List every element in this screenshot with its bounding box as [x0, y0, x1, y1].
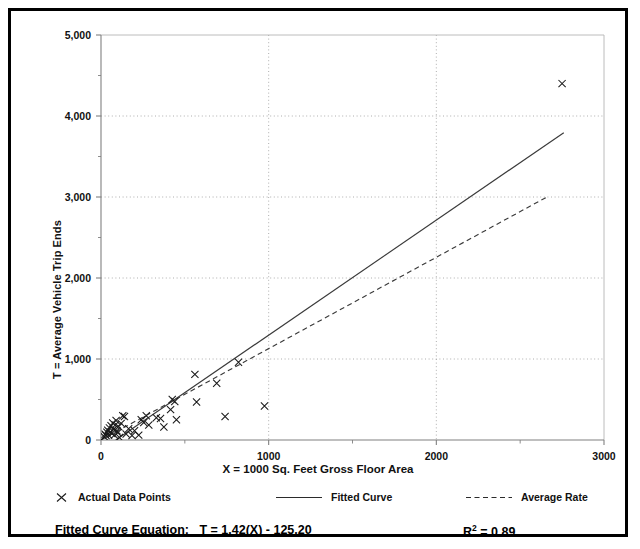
- equation-value: T = 1.42(X) - 125.20: [199, 523, 311, 537]
- plot-area-container: 01,0002,0003,0004,0005,0000100020003000: [11, 11, 625, 481]
- fitted-curve-equation: Fitted Curve Equation: T = 1.42(X) - 125…: [55, 523, 312, 537]
- svg-text:2,000: 2,000: [65, 272, 91, 284]
- svg-text:0: 0: [98, 450, 104, 462]
- r-squared-exponent: 2: [472, 523, 477, 533]
- svg-text:1,000: 1,000: [65, 353, 91, 365]
- svg-text:4,000: 4,000: [65, 110, 91, 122]
- x-axis-title-label: X = 1000 Sq. Feet Gross Floor Area: [223, 463, 414, 475]
- r-squared-annotation: R2 = 0.89: [463, 523, 515, 539]
- scatter-plot-svg: 01,0002,0003,0004,0005,0000100020003000: [11, 11, 625, 481]
- chart-outer-border: 01,0002,0003,0004,0005,0000100020003000 …: [8, 8, 628, 537]
- x-marker-icon: [55, 492, 69, 503]
- solid-line-icon: [276, 492, 322, 503]
- svg-text:3000: 3000: [592, 450, 616, 462]
- x-axis-title: X = 1000 Sq. Feet Gross Floor Area: [11, 463, 625, 475]
- svg-text:2000: 2000: [425, 450, 449, 462]
- svg-text:1000: 1000: [257, 450, 281, 462]
- equation-label: Fitted Curve Equation:: [55, 523, 189, 537]
- svg-text:0: 0: [85, 434, 91, 446]
- y-axis-title-label: T = Average Vehicle Trip Ends: [51, 220, 63, 379]
- svg-text:3,000: 3,000: [65, 191, 91, 203]
- legend-label-fitted-curve: Fitted Curve: [331, 491, 392, 503]
- chart-legend: Actual Data Points Fitted Curve Average …: [11, 491, 625, 513]
- legend-item-actual-data-points: Actual Data Points: [55, 491, 171, 503]
- equation-row: Fitted Curve Equation: T = 1.42(X) - 125…: [11, 523, 625, 547]
- legend-label-actual-data-points: Actual Data Points: [78, 491, 171, 503]
- dashed-line-icon: [466, 492, 512, 503]
- y-axis-title: T = Average Vehicle Trip Ends: [33, 111, 57, 381]
- r-squared-symbol: R: [463, 525, 472, 539]
- svg-text:5,000: 5,000: [65, 29, 91, 41]
- r-squared-value: = 0.89: [480, 525, 515, 539]
- legend-item-average-rate: Average Rate: [466, 491, 588, 503]
- legend-item-fitted-curve: Fitted Curve: [276, 491, 392, 503]
- legend-label-average-rate: Average Rate: [521, 491, 588, 503]
